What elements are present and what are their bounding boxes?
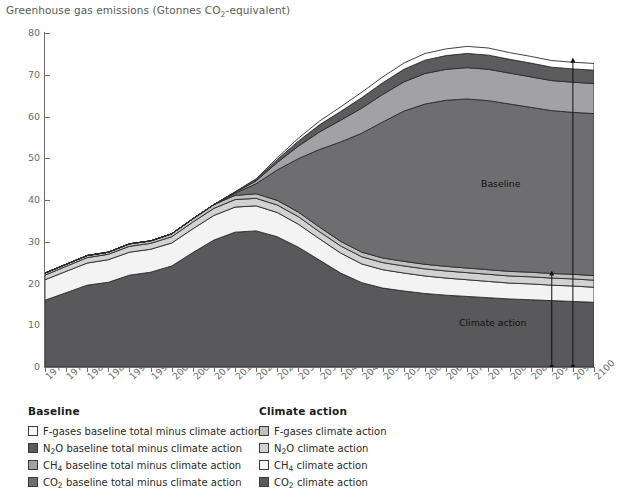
- legend-label-subscript: 2: [58, 481, 63, 490]
- chart-legend: Baseline F-gases baseline total minus cl…: [0, 405, 611, 496]
- legend-item[interactable]: F-gases baseline total minus climate act…: [28, 423, 260, 439]
- y-tick-label: 10: [18, 319, 40, 330]
- climate-action-annotation-label: Climate action: [459, 317, 526, 328]
- legend-heading-baseline: Baseline: [28, 405, 260, 417]
- legend-item[interactable]: N2O baseline total minus climate action: [28, 440, 260, 456]
- legend-swatch-icon: [28, 460, 38, 470]
- y-tick-label: 0: [18, 361, 40, 372]
- legend-item[interactable]: CH4 baseline total minus climate action: [28, 457, 260, 473]
- legend-swatch-icon: [259, 443, 269, 453]
- legend-swatch-icon: [28, 443, 38, 453]
- y-tick-label: 60: [18, 111, 40, 122]
- legend-label-subscript: 2: [50, 447, 55, 456]
- legend-item-label: CH4 climate action: [274, 460, 368, 471]
- y-tick-label: 70: [18, 69, 40, 80]
- chart-title-post: -equivalent): [226, 4, 291, 16]
- baseline-annotation-label: Baseline: [481, 178, 520, 189]
- legend-item-label: F-gases climate action: [274, 426, 387, 437]
- legend-items-climate-action: F-gases climate actionN2O climate action…: [259, 423, 387, 490]
- legend-item-label: N2O climate action: [274, 443, 368, 454]
- y-tick-label: 50: [18, 152, 40, 163]
- legend-column-baseline: Baseline F-gases baseline total minus cl…: [28, 405, 260, 491]
- y-tick-label: 20: [18, 278, 40, 289]
- x-tick-label: 2100: [592, 357, 617, 382]
- legend-item-label: F-gases baseline total minus climate act…: [43, 426, 260, 437]
- legend-swatch-icon: [259, 477, 269, 487]
- y-tick-label: 30: [18, 236, 40, 247]
- legend-item[interactable]: CO2 climate action: [259, 474, 387, 490]
- chart-title-pre: Greenhouse gas emissions (Gtonnes CO: [6, 4, 221, 16]
- legend-swatch-icon: [28, 477, 38, 487]
- legend-label-subscript: 4: [58, 464, 63, 473]
- legend-swatch-icon: [259, 460, 269, 470]
- legend-item-label: CH4 baseline total minus climate action: [43, 460, 241, 471]
- y-tick-label: 80: [18, 27, 40, 38]
- legend-label-subscript: 2: [289, 481, 294, 490]
- legend-item[interactable]: N2O climate action: [259, 440, 387, 456]
- legend-label-subscript: 4: [289, 464, 294, 473]
- legend-heading-climate-action: Climate action: [259, 405, 387, 417]
- legend-item[interactable]: CH4 climate action: [259, 457, 387, 473]
- legend-items-baseline: F-gases baseline total minus climate act…: [28, 423, 260, 490]
- legend-item[interactable]: CO2 baseline total minus climate action: [28, 474, 260, 490]
- legend-column-climate-action: Climate action F-gases climate actionN2O…: [259, 405, 387, 491]
- legend-item[interactable]: F-gases climate action: [259, 423, 387, 439]
- legend-item-label: N2O baseline total minus climate action: [43, 443, 242, 454]
- legend-swatch-icon: [259, 426, 269, 436]
- legend-item-label: CO2 baseline total minus climate action: [43, 477, 242, 488]
- y-tick-label: 40: [18, 194, 40, 205]
- legend-swatch-icon: [28, 426, 38, 436]
- legend-item-label: CO2 climate action: [274, 477, 368, 488]
- legend-label-subscript: 2: [281, 447, 286, 456]
- chart-title: Greenhouse gas emissions (Gtonnes CO2-eq…: [6, 4, 290, 19]
